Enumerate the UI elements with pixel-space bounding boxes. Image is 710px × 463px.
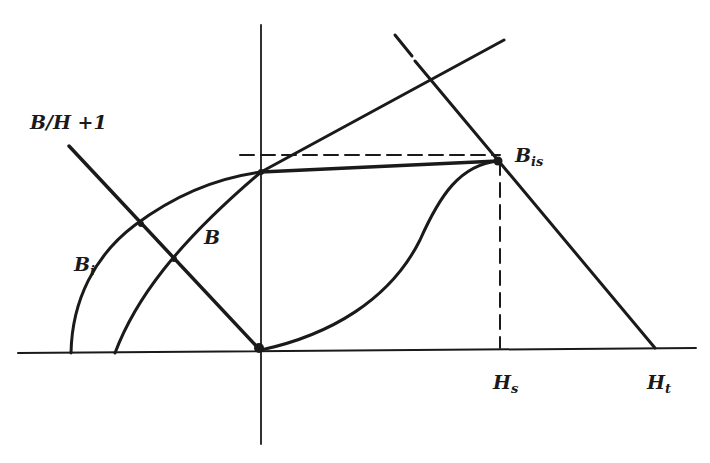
origin-point bbox=[254, 343, 264, 353]
b-intersection bbox=[171, 256, 177, 262]
axis-hs-sub: s bbox=[511, 381, 518, 396]
induction-curve-b bbox=[115, 40, 504, 353]
axis-ht-base: H bbox=[647, 371, 665, 393]
axis-ht-sub: t bbox=[665, 381, 671, 396]
line-to-ht bbox=[415, 61, 655, 348]
curve-bi-base: B bbox=[74, 253, 90, 275]
bis-point bbox=[494, 157, 503, 166]
diagram-canvas bbox=[0, 0, 710, 463]
axis-ht-label: Ht bbox=[647, 373, 671, 395]
bi-intersection bbox=[138, 221, 144, 227]
line-to-ht-dashed-extension bbox=[395, 35, 412, 56]
curve-bi-label: Bi bbox=[74, 255, 95, 277]
intrinsic-curve-bi bbox=[71, 172, 261, 353]
axis-hs-base: H bbox=[493, 371, 511, 393]
curve-bi-sub: i bbox=[90, 263, 95, 278]
point-bis-label: Bis bbox=[515, 146, 543, 168]
figure-caption bbox=[130, 450, 590, 463]
recoil-line bbox=[261, 161, 498, 172]
s-curve bbox=[261, 161, 498, 350]
curve-b-label: B bbox=[204, 228, 220, 247]
horizontal-axis bbox=[18, 348, 696, 353]
load-line-label: B/H +1 bbox=[30, 113, 107, 132]
point-bis-sub: is bbox=[531, 154, 543, 169]
axis-hs-label: Hs bbox=[493, 373, 518, 395]
point-bis-base: B bbox=[515, 144, 531, 166]
b-knee-point bbox=[258, 169, 264, 175]
